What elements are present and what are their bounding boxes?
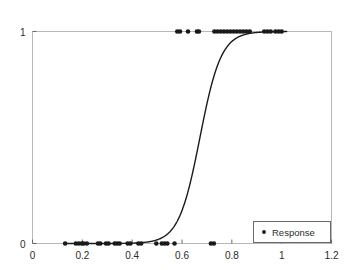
chart-legend[interactable]: Response [254,222,331,243]
scatter-point [165,241,170,246]
scatter-point [139,241,144,246]
scatter-point [117,241,122,246]
x-tick-label-5: 1 [279,250,285,261]
scatter-point [106,241,111,246]
scatter-point [186,29,191,34]
x-tick-label-0: 0 [30,250,36,261]
legend-marker-dot [262,230,266,234]
x-tick-label-3: 0.6 [175,250,189,261]
plot-area: 00.20.40.60.811.2 01 Response [0,0,344,270]
scatter-point [197,29,202,34]
scatter-point [85,241,90,246]
scatter-point [178,29,183,34]
x-tick-label-6: 1.2 [325,250,339,261]
y-tick-label-1: 1 [20,27,26,38]
scatter-point [268,29,273,34]
legend-entry-label: Response [272,227,315,238]
scatter-point [154,241,159,246]
scatter-point [63,241,68,246]
scatter-point [172,241,177,246]
scatter-point [279,29,284,34]
y-tick-label-0: 0 [20,239,26,250]
scatter-point [247,29,252,34]
x-tick-label-2: 0.4 [125,250,139,261]
scatter-point [212,241,217,246]
x-tick-label-4: 0.8 [225,250,239,261]
chart-figure: Response vs Ad spend 00.20.40.60.811.2 0… [0,0,344,270]
scatter-point [98,241,103,246]
x-tick-label-1: 0.2 [75,250,89,261]
scatter-point [128,241,133,246]
